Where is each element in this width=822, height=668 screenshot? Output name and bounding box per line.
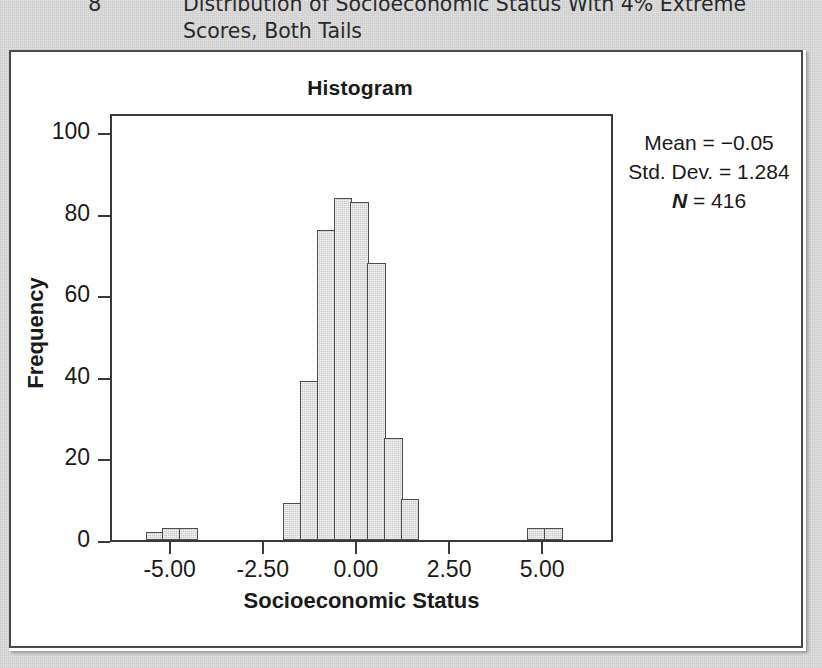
y-axis-tick-label: 0 (10, 526, 90, 553)
histogram-plot-area (110, 114, 613, 542)
x-axis-tick (355, 542, 357, 554)
y-axis-tick (98, 215, 110, 217)
stat-mean: Mean = −0.05 (620, 128, 798, 157)
y-axis-tick-label: 80 (10, 200, 90, 227)
x-axis-tick (541, 542, 543, 554)
y-axis-tick-label: 20 (10, 444, 90, 471)
x-axis-tick-label: 5.00 (482, 556, 602, 583)
stat-n: N = 416 (620, 186, 798, 215)
y-axis-tick-label: 40 (10, 363, 90, 390)
x-axis-tick (169, 542, 171, 554)
figure-caption-line-2: Scores, Both Tails (183, 19, 362, 43)
histogram-bars (112, 116, 611, 540)
x-axis-title: Socioeconomic Status (110, 588, 613, 614)
histogram-bar (179, 528, 198, 540)
y-axis-tick-label: 100 (10, 118, 90, 145)
y-axis-tick (98, 133, 110, 135)
y-axis-tick-label: 60 (10, 281, 90, 308)
figure-caption-line-1: Distribution of Socioeconomic Status Wit… (183, 0, 746, 16)
x-axis-tick (448, 542, 450, 554)
stat-n-symbol: N (672, 189, 687, 212)
x-axis-tick (262, 542, 264, 554)
y-axis-tick (98, 296, 110, 298)
statistics-annotation: Mean = −0.05 Std. Dev. = 1.284 N = 416 (620, 128, 798, 215)
y-axis-title: Frequency (23, 233, 49, 433)
figure-number: 8 (88, 0, 101, 16)
y-axis-tick (98, 459, 110, 461)
stat-std-dev: Std. Dev. = 1.284 (620, 157, 798, 186)
histogram-bar (544, 528, 563, 540)
chart-title: Histogram (105, 76, 615, 100)
stat-n-value: = 416 (687, 189, 746, 212)
figure-caption: 8 Distribution of Socioeconomic Status W… (0, 0, 822, 48)
scanned-page: 8 Distribution of Socioeconomic Status W… (0, 0, 822, 668)
histogram-bar (401, 499, 420, 540)
y-axis-tick (98, 378, 110, 380)
y-axis-tick (98, 541, 110, 543)
